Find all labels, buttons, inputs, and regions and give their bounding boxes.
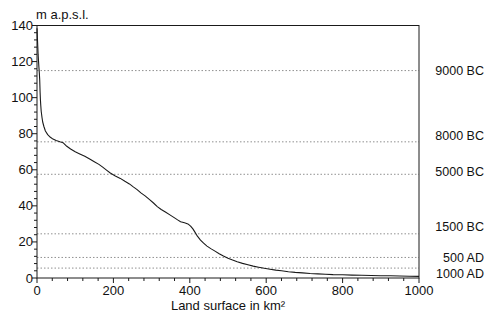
- chart: 9000 BC8000 BC5000 BC1500 BC500 AD1000 A…: [0, 0, 494, 326]
- y-tick-label: 20: [19, 234, 33, 249]
- x-tick-label: 0: [33, 283, 40, 298]
- y-tick-label: 40: [19, 198, 33, 213]
- x-axis-title: Land surface in km²: [0, 298, 456, 313]
- level-curve: [37, 28, 419, 276]
- x-tick-label: 400: [179, 283, 201, 298]
- x-tick-label: 200: [103, 283, 125, 298]
- plot-area: 9000 BC8000 BC5000 BC1500 BC500 AD1000 A…: [0, 0, 494, 326]
- x-tick-label: 1000: [405, 283, 434, 298]
- x-tick-label: 600: [255, 283, 277, 298]
- y-tick-label: 120: [11, 54, 33, 69]
- era-label: 8000 BC: [435, 129, 484, 143]
- era-label: 500 AD: [443, 251, 484, 265]
- y-tick-label: 80: [19, 126, 33, 141]
- era-label: 1000 AD: [436, 267, 484, 281]
- y-tick-label: 140: [11, 18, 33, 33]
- y-axis-title: m a.p.s.l.: [36, 7, 89, 22]
- x-tick-label: 800: [332, 283, 354, 298]
- y-tick-label: 60: [19, 162, 33, 177]
- y-tick-label: 0: [26, 271, 33, 286]
- plot-frame: [37, 26, 419, 279]
- y-tick-label: 100: [11, 90, 33, 105]
- era-label: 5000 BC: [435, 165, 484, 179]
- era-label: 1500 BC: [435, 220, 484, 234]
- era-label: 9000 BC: [435, 64, 484, 78]
